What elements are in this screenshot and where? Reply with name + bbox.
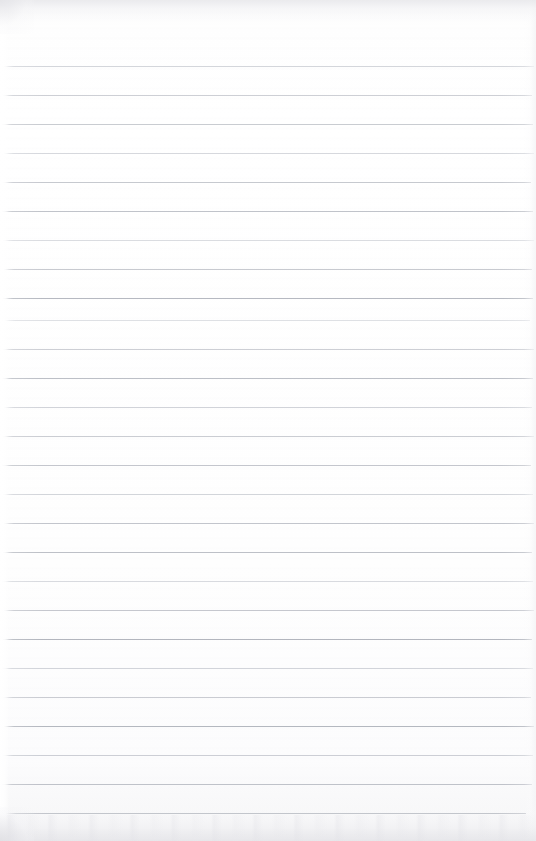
ruled-line bbox=[2, 211, 533, 212]
ruled-line bbox=[2, 581, 533, 582]
ruled-line bbox=[4, 726, 534, 727]
ruled-line bbox=[2, 784, 532, 785]
ruled-line bbox=[3, 182, 531, 183]
ruled-lines-group bbox=[0, 0, 536, 841]
ruled-line bbox=[4, 66, 534, 67]
ruled-line bbox=[3, 639, 532, 640]
ruled-line bbox=[3, 697, 531, 698]
ruled-line bbox=[2, 378, 533, 379]
ruled-line bbox=[4, 407, 532, 408]
ruled-line bbox=[4, 269, 532, 270]
ruled-line bbox=[3, 240, 534, 241]
ruled-line bbox=[4, 523, 534, 524]
ruled-line bbox=[6, 813, 526, 814]
ruled-line bbox=[3, 298, 533, 299]
ruled-line bbox=[3, 755, 533, 756]
ruled-line bbox=[2, 668, 533, 669]
notebook-page bbox=[0, 0, 536, 841]
ruled-line bbox=[3, 436, 534, 437]
ruled-line bbox=[5, 320, 530, 321]
ruled-line bbox=[2, 124, 533, 125]
ruled-line bbox=[2, 465, 531, 466]
ruled-line bbox=[3, 95, 532, 96]
ruled-line bbox=[3, 494, 533, 495]
ruled-line bbox=[4, 610, 534, 611]
ruled-line bbox=[3, 349, 534, 350]
ruled-line bbox=[4, 153, 534, 154]
ruled-line bbox=[3, 552, 532, 553]
